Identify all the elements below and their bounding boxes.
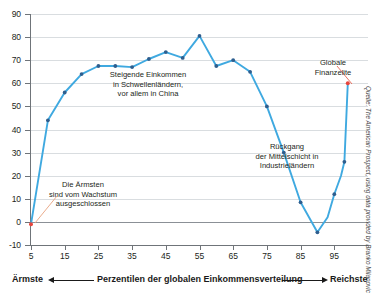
data-point	[46, 118, 50, 122]
data-point	[316, 230, 320, 234]
data-point	[63, 91, 67, 95]
annotation-poorest-line1: Die Ärmsten	[33, 180, 133, 190]
data-point	[130, 65, 134, 69]
annotation-poorest-line3: ausgeschlossen	[33, 199, 133, 209]
arrow-left-head-icon	[48, 277, 54, 283]
data-point	[332, 192, 336, 196]
caption-poorest: Ärmste	[12, 274, 43, 285]
data-point	[164, 50, 168, 54]
annotation-middle-line2: der Mittelschicht in	[236, 152, 338, 162]
annotation-emerging-line1: Steigende Einkommen	[88, 70, 208, 80]
data-point	[214, 64, 218, 68]
data-point-highlight	[29, 222, 33, 226]
data-point	[231, 58, 235, 62]
arrow-right-line	[282, 280, 322, 281]
annotation-poorest-line2: sind vom Wachstum	[33, 190, 133, 200]
data-point	[80, 72, 84, 76]
data-point	[113, 64, 117, 68]
data-point	[343, 160, 347, 164]
data-point	[147, 57, 151, 61]
annotation-middle-class-decline: Rückgang der Mittelschicht in Industriel…	[236, 142, 338, 171]
arrow-left-line	[54, 280, 94, 281]
annotation-emerging-markets: Steigende Einkommen in Schwellenländern,…	[88, 70, 208, 99]
caption-richest: Reichste	[330, 274, 368, 285]
source-credit: Quelle: The American Prospect, using dat…	[365, 86, 372, 293]
annotation-emerging-line3: vor allem in China	[88, 89, 208, 99]
annotation-middle-line3: Industrieländern	[236, 161, 338, 171]
annotation-middle-line1: Rückgang	[236, 142, 338, 152]
annotation-elite-line2: Finanzelite	[300, 68, 366, 78]
elephant-curve-chart: 90 80 70 60 50 40 30 20 10 0 -10 5 15 25…	[0, 0, 389, 295]
data-point	[181, 56, 185, 60]
annotation-poorest: Die Ärmsten sind vom Wachstum ausgeschlo…	[33, 180, 133, 209]
data-point	[198, 34, 202, 38]
arrow-right-head-icon	[322, 277, 328, 283]
x-axis-caption-bar: Ärmste Perzentilen der globalen Einkomme…	[0, 272, 389, 290]
annotation-emerging-line2: in Schwellenländern,	[88, 80, 208, 90]
data-point-highlight	[346, 81, 350, 85]
data-point	[299, 200, 303, 204]
annotation-elite-line1: Globale	[300, 58, 366, 68]
caption-axis-title: Perzentilen der globalen Einkommensverte…	[97, 274, 293, 285]
data-point	[248, 70, 252, 74]
annotation-global-elite: Globale Finanzelite	[300, 58, 366, 77]
data-point	[265, 105, 269, 109]
data-point	[97, 64, 101, 68]
